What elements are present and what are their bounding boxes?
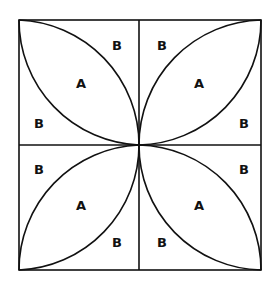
label-b-top-right-lower: B: [239, 116, 249, 131]
label-b-top-right-upper: B: [157, 38, 167, 53]
label-b-bottom-right-lower: B: [157, 235, 167, 250]
label-a-top-left: A: [76, 76, 86, 91]
label-a-top-right: A: [194, 76, 204, 91]
label-b-bottom-right-upper: B: [239, 162, 249, 177]
label-a-bottom-right: A: [194, 198, 204, 213]
label-b-top-left-upper: B: [112, 38, 122, 53]
quilt-block-diagram: A B B A B B A B B A B B: [0, 0, 273, 285]
label-b-top-left-lower: B: [34, 116, 44, 131]
label-b-bottom-left-upper: B: [34, 162, 44, 177]
label-b-bottom-left-lower: B: [112, 235, 122, 250]
label-a-bottom-left: A: [76, 198, 86, 213]
